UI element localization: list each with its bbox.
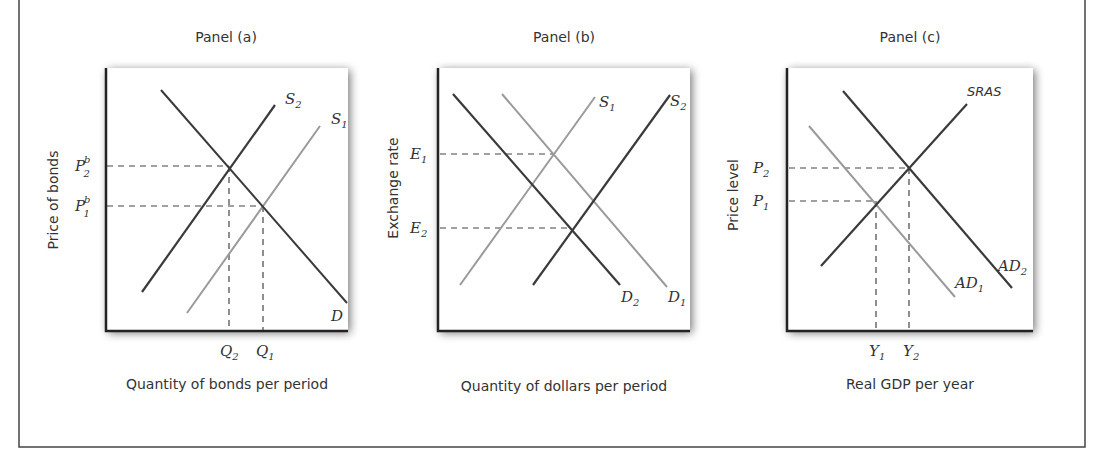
panel-b-ylabel: Exchange rate <box>385 137 401 238</box>
panel-a-ylabel: Price of bonds <box>45 150 61 249</box>
panel-a-title: Panel (a) <box>195 29 257 45</box>
panel-c-tick-p1: P1 <box>752 192 769 212</box>
figure: Panel (a) S2 S1 D Pb2 Pb1 Q2 Q1 Quantity… <box>0 0 1100 468</box>
panel-b: Panel (b) S1 S2 D2 D1 E1 E2 Quantity of … <box>385 29 690 394</box>
panel-c-tick-y2: Y2 <box>903 342 919 362</box>
panel-a-tick-q1: Q1 <box>256 342 275 362</box>
panel-a-tick-q2: Q2 <box>220 342 239 362</box>
panel-b-title: Panel (b) <box>533 29 595 45</box>
panel-c-tick-y1: Y1 <box>869 342 885 362</box>
panel-a-tick-p1: Pb1 <box>74 194 91 219</box>
panel-a: Panel (a) S2 S1 D Pb2 Pb1 Q2 Q1 Quantity… <box>45 29 348 392</box>
panel-c-label-sras: SRAS <box>967 84 1001 99</box>
panel-c-title: Panel (c) <box>880 29 941 45</box>
panel-a-tick-p2: Pb2 <box>74 154 91 179</box>
panel-c-xlabel: Real GDP per year <box>846 376 974 392</box>
panel-c-frame <box>787 68 1033 331</box>
panel-a-xlabel: Quantity of bonds per period <box>126 376 328 392</box>
panel-b-tick-e2: E2 <box>409 219 427 239</box>
panel-b-frame <box>438 68 690 331</box>
panel-c: Panel (c) SRAS AD2 AD1 P2 P1 Y1 Y2 Real … <box>725 29 1033 392</box>
panel-b-xlabel: Quantity of dollars per period <box>461 378 668 394</box>
panel-b-tick-e1: E1 <box>409 145 427 165</box>
panel-c-ylabel: Price level <box>725 159 741 231</box>
panel-a-label-d: D <box>330 307 343 325</box>
panel-c-tick-p2: P2 <box>752 159 769 179</box>
